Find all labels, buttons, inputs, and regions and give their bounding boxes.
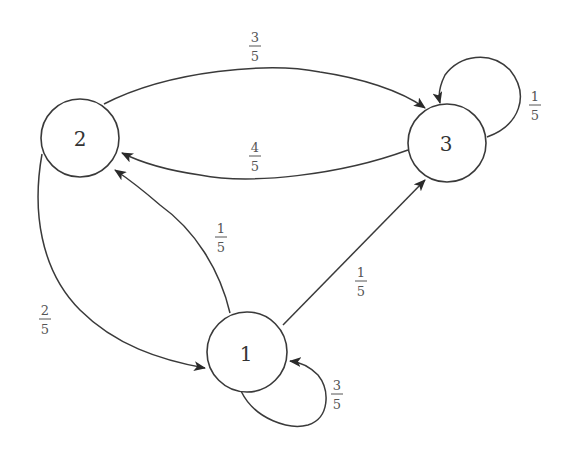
- markov-chain-diagram: 2 3 1 3 5 4 5 1 5 1 5 1 5 2 5 3 5: [0, 0, 563, 454]
- node-2-label: 2: [74, 127, 87, 151]
- label-2-to-1-numerator: 2: [41, 303, 49, 318]
- label-2-to-3-numerator: 3: [251, 30, 259, 45]
- label-1-to-3-numerator: 1: [357, 265, 365, 280]
- label-3-to-2-denominator: 5: [251, 159, 259, 174]
- label-1-to-1-denominator: 5: [333, 397, 341, 412]
- edge-2-to-3: [104, 68, 425, 108]
- label-2-to-3-denominator: 5: [251, 49, 259, 64]
- node-3: 3: [408, 104, 486, 182]
- label-1-to-2: 1 5: [215, 221, 227, 255]
- edge-1-to-2: [115, 170, 230, 313]
- edge-1-to-3: [283, 180, 425, 325]
- label-3-to-3: 1 5: [529, 89, 541, 123]
- label-1-to-2-numerator: 1: [217, 221, 225, 236]
- label-1-to-3: 1 5: [355, 265, 367, 299]
- label-2-to-1: 2 5: [39, 303, 51, 337]
- edge-2-to-1: [38, 154, 205, 368]
- label-1-to-1-numerator: 3: [333, 378, 341, 393]
- node-3-label: 3: [440, 132, 453, 156]
- node-1-label: 1: [240, 342, 253, 366]
- label-3-to-3-numerator: 1: [531, 89, 539, 104]
- label-3-to-3-denominator: 5: [531, 108, 539, 123]
- label-3-to-2-numerator: 4: [251, 140, 259, 155]
- label-1-to-1: 3 5: [331, 378, 343, 412]
- label-1-to-2-denominator: 5: [217, 240, 225, 255]
- label-3-to-2: 4 5: [249, 140, 261, 174]
- label-2-to-1-denominator: 5: [41, 322, 49, 337]
- node-2: 2: [41, 99, 119, 177]
- label-1-to-3-denominator: 5: [357, 284, 365, 299]
- node-1: 1: [207, 312, 287, 392]
- label-2-to-3: 3 5: [249, 30, 261, 64]
- edge-3-to-2: [122, 150, 408, 179]
